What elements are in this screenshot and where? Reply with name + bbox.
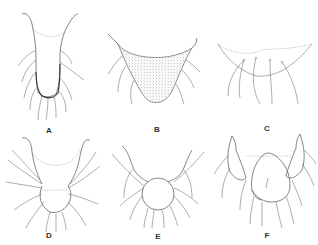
panel-f-drawing bbox=[214, 134, 316, 228]
panel-label-c: C bbox=[264, 125, 270, 133]
figure-drawings bbox=[0, 0, 318, 245]
panel-b-drawing bbox=[108, 34, 200, 104]
panel-e-drawing bbox=[112, 146, 204, 228]
panel-label-b: B bbox=[154, 126, 160, 134]
figure: A B C D E F bbox=[0, 0, 318, 245]
panel-label-f: F bbox=[265, 232, 270, 240]
panel-c-drawing bbox=[218, 44, 312, 104]
panel-label-e: E bbox=[155, 233, 160, 241]
panel-label-a: A bbox=[46, 127, 52, 135]
panel-a-drawing bbox=[18, 13, 84, 120]
panel-label-d: D bbox=[46, 232, 52, 240]
panel-d-drawing bbox=[6, 138, 100, 232]
